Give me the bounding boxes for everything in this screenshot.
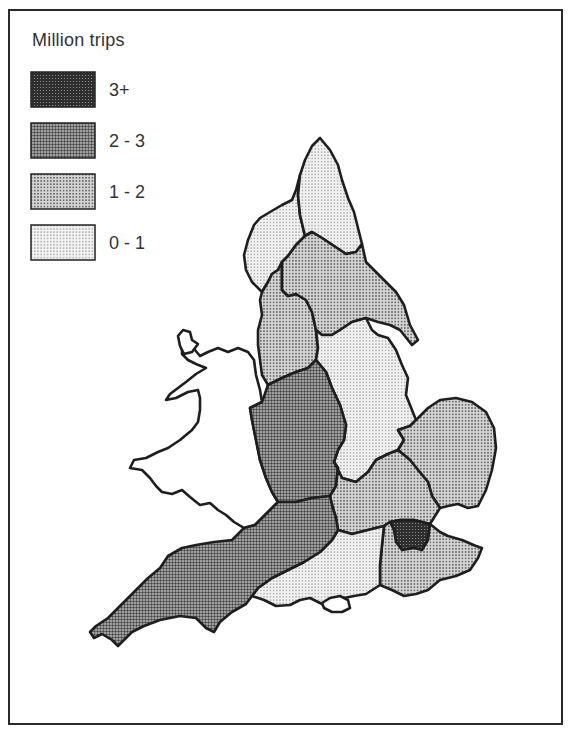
england-wales-map: [0, 0, 575, 732]
region-south-east: [380, 522, 482, 596]
